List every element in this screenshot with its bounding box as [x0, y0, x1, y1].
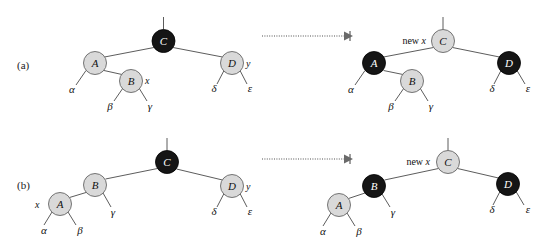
edge-a-alpha — [355, 71, 365, 86]
figure-canvas: (a) — [0, 0, 550, 247]
edge-b-gamma — [103, 193, 111, 207]
node-a-key: A — [56, 198, 64, 210]
edge-c-a — [384, 48, 434, 58]
pointer-label-y: y — [245, 181, 251, 192]
subtree-label-epsilon: ε — [526, 203, 531, 215]
panel-b-before-tree: C B A D α β γ δ ε x — [34, 138, 253, 236]
node-c-key: C — [163, 156, 171, 168]
edge-c-b — [385, 169, 439, 181]
node-d-key: D — [227, 57, 236, 69]
edge-d-epsilon — [240, 71, 247, 85]
node-c[interactable]: C — [437, 151, 460, 174]
subtree-label-beta: β — [355, 225, 362, 237]
node-c[interactable]: C — [432, 30, 455, 53]
transform-arrow-a — [262, 31, 353, 41]
subtree-label-delta: δ — [211, 82, 217, 94]
new-x-prefix: new — [402, 35, 421, 46]
node-d[interactable]: D — [497, 173, 520, 196]
edge-d-delta — [217, 71, 224, 85]
edge-a-b — [384, 71, 404, 75]
subtree-label-delta: δ — [211, 205, 217, 217]
panel-b-label: (b) — [17, 179, 30, 192]
edge-d-epsilon — [517, 71, 525, 85]
subtree-label-gamma: γ — [148, 100, 153, 112]
edge-a-b — [104, 71, 122, 75]
subtree-label-beta: β — [387, 100, 394, 112]
node-d[interactable]: D — [498, 52, 521, 75]
new-x-pointer-label: new x — [402, 35, 426, 46]
edge-c-d — [458, 169, 499, 179]
edge-a-beta — [347, 213, 355, 226]
subtree-label-beta: β — [76, 224, 83, 236]
edge-c-d — [177, 169, 223, 180]
edge-c-d — [453, 48, 500, 58]
new-x-pointer-label: new x — [406, 156, 430, 167]
node-c[interactable]: C — [152, 30, 175, 53]
panel-a-before-tree: C A B D α β γ δ ε — [69, 17, 253, 112]
edge-c-b — [106, 169, 158, 180]
edge-b-a — [349, 193, 366, 199]
subtree-label-alpha: α — [348, 83, 354, 95]
subtree-label-delta: δ — [489, 82, 495, 94]
subtree-label-alpha: α — [41, 224, 47, 236]
subtree-label-gamma: γ — [391, 206, 396, 218]
transform-arrow-b — [262, 154, 353, 164]
node-b-key: B — [128, 75, 135, 87]
node-c-key: C — [160, 35, 168, 47]
transform-arrow-a-head — [344, 32, 353, 41]
node-a[interactable]: A — [328, 194, 351, 217]
edge-d-epsilon — [516, 192, 524, 206]
red-black-tree-rotation-diagram: (a) — [0, 0, 550, 247]
edge-a-alpha — [76, 71, 86, 86]
node-c-key: C — [444, 156, 452, 168]
node-d-key: D — [504, 57, 513, 69]
pointer-label-x: x — [144, 75, 150, 86]
node-c-key: C — [439, 35, 447, 47]
new-x-prefix: new — [406, 156, 425, 167]
edge-b-a — [70, 193, 87, 198]
subtree-label-alpha: α — [69, 83, 75, 95]
new-x-variable: x — [421, 35, 427, 46]
pointer-label-y: y — [245, 58, 251, 69]
subtree-label-gamma: γ — [429, 100, 434, 112]
node-b[interactable]: B — [363, 175, 386, 198]
edge-b-gamma — [420, 88, 428, 101]
node-b[interactable]: B — [401, 70, 424, 93]
edge-b-beta — [114, 88, 123, 101]
node-a-key: A — [91, 57, 99, 69]
subtree-label-epsilon: ε — [248, 205, 253, 217]
subtree-label-beta: β — [106, 100, 113, 112]
panel-b-after-tree: C B A D α β γ δ ε new x — [320, 138, 531, 237]
node-b[interactable]: B — [120, 70, 143, 93]
node-d-key: D — [503, 178, 512, 190]
edge-b-gamma — [382, 194, 390, 207]
subtree-label-epsilon: ε — [526, 82, 531, 94]
panel-b: (b) — [17, 138, 531, 237]
node-a-key: A — [370, 57, 378, 69]
edge-a-beta — [68, 212, 76, 225]
node-b-key: B — [371, 180, 378, 192]
edge-d-delta — [494, 71, 501, 85]
node-a[interactable]: A — [363, 52, 386, 75]
node-a-key: A — [335, 199, 343, 211]
edge-b-gamma — [139, 88, 147, 101]
edge-d-epsilon — [240, 194, 247, 208]
node-b[interactable]: B — [84, 174, 107, 197]
node-c[interactable]: C — [156, 151, 179, 174]
subtree-label-delta: δ — [489, 203, 495, 215]
node-a[interactable]: A — [49, 193, 72, 216]
panel-a-label: (a) — [17, 59, 30, 72]
new-x-variable: x — [425, 156, 431, 167]
edge-b-beta — [395, 88, 404, 101]
panel-a: (a) — [17, 17, 531, 112]
node-b-key: B — [409, 75, 416, 87]
node-d[interactable]: D — [221, 52, 244, 75]
edge-c-d — [173, 48, 223, 58]
transform-arrow-b-head — [344, 155, 353, 164]
node-d[interactable]: D — [221, 175, 244, 198]
edge-d-delta — [217, 194, 224, 208]
pointer-label-x: x — [34, 199, 40, 210]
subtree-label-epsilon: ε — [248, 82, 253, 94]
subtree-label-gamma: γ — [111, 206, 116, 218]
node-a[interactable]: A — [84, 52, 107, 75]
